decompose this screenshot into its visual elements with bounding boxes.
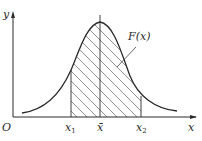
origin-label: O	[2, 121, 11, 134]
curve-label: F(x)	[127, 30, 150, 43]
distribution-diagram: y O x F(x) x1 x̄ x2	[0, 0, 202, 141]
shaded-region	[0, 20, 190, 120]
mean-label: x̄	[97, 121, 104, 134]
x1-label: x1	[65, 121, 76, 135]
y-axis-arrow-icon	[11, 11, 15, 18]
x-axis-arrow-icon	[190, 115, 197, 119]
x-axis-label: x	[188, 121, 195, 134]
x2-label: x2	[136, 121, 147, 135]
y-axis-label: y	[2, 8, 10, 21]
